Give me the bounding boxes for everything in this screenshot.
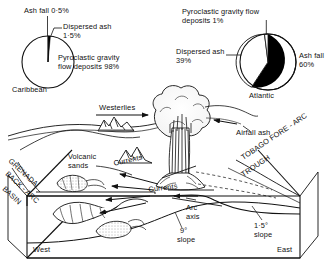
atlantic-pyroclastic-label-2: deposits 1% — [182, 17, 223, 26]
caribbean-ash-fall-label: Ash fall 0·5% — [24, 7, 69, 16]
atlantic-ash-fall-label-2: 60% — [299, 61, 314, 70]
basin-contour-dashed — [196, 172, 272, 190]
caribbean-pie-caption: Caribbean — [12, 86, 47, 95]
volcanic-sands-label-2: sands — [68, 162, 88, 171]
submarine-fan-lobes — [53, 175, 148, 238]
atlantic-pie-caption: Atlantic — [249, 92, 274, 101]
slope-9-label-2: slope — [177, 236, 195, 245]
westerlies-label: Westerlies — [99, 104, 135, 113]
west-label: West — [33, 246, 50, 255]
arc-axis-label-2: axis — [186, 213, 200, 222]
atlantic-dispersed-label-2: 39% — [176, 57, 191, 66]
east-label: East — [277, 246, 292, 255]
far-horizon-line-2 — [8, 124, 170, 140]
caribbean-pyroclastic-label-2: flow deposits 98% — [58, 63, 119, 72]
block-diagram — [8, 86, 320, 258]
caribbean-leader-dispersed — [51, 28, 62, 37]
slope-15-label-2: slope — [254, 231, 272, 240]
caribbean-dispersed-label-2: 1·5% — [63, 32, 81, 41]
island-peak-far — [98, 117, 134, 131]
far-horizon-line — [8, 120, 168, 136]
block-right-side-face — [300, 172, 318, 258]
block-top-edge-hint — [36, 192, 155, 194]
atlantic-pie — [226, 20, 296, 90]
mid-ridge-line — [20, 130, 140, 150]
airfall-ash-arrow — [214, 120, 237, 124]
figure-root: Ash fall 0·5% Dispersed ash 1·5% Pyrocla… — [0, 0, 328, 271]
